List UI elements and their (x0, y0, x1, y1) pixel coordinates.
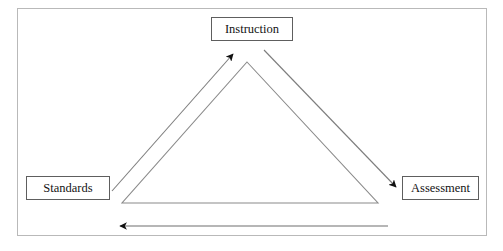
node-assessment[interactable]: Assessment (402, 176, 479, 200)
connector-standards-to-instruction (112, 54, 233, 191)
node-instruction[interactable]: Instruction (211, 17, 293, 41)
node-standards[interactable]: Standards (26, 176, 110, 200)
connector-instruction-to-assessment (264, 50, 396, 187)
diagram-canvas: Instruction Standards Assessment (0, 0, 503, 251)
inner-triangle (122, 62, 378, 203)
node-assessment-label: Assessment (411, 182, 470, 195)
node-instruction-label: Instruction (225, 23, 279, 36)
node-standards-label: Standards (43, 182, 92, 195)
